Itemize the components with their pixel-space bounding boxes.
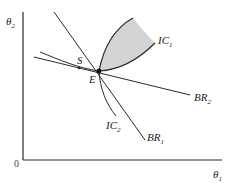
- ic1-label: IC1: [157, 34, 173, 49]
- stackelberg-label: S: [77, 54, 83, 66]
- ic2-label: IC2: [105, 119, 121, 134]
- br2-label: BR2: [194, 91, 211, 106]
- equilibrium-point: [97, 69, 102, 74]
- x-axis-label: θ1: [213, 168, 222, 183]
- stackelberg-point: [78, 67, 81, 70]
- br1-label: BR1: [147, 131, 164, 146]
- y-axis-label: θ2: [6, 15, 15, 30]
- diagram-canvas: θ2 θ1 0 S E IC1 IC2 BR1 BR2: [0, 0, 237, 183]
- equilibrium-label: E: [88, 73, 96, 85]
- origin-label: 0: [14, 158, 19, 169]
